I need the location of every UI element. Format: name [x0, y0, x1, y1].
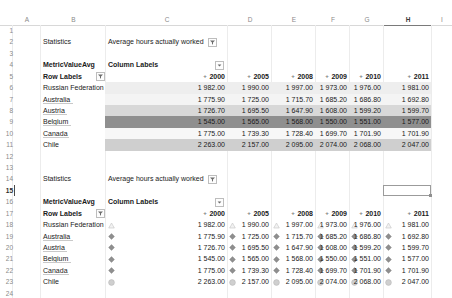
- t1-year-header-2009[interactable]: +2009: [316, 71, 350, 83]
- t2-value-austria-2000[interactable]: 1 726.70: [106, 242, 228, 254]
- t2-value-belgium-2000[interactable]: 1 545.00: [106, 253, 228, 265]
- row-header-12[interactable]: 12: [0, 151, 15, 163]
- t2-year-header-2005[interactable]: +2005: [228, 208, 272, 220]
- t1-row-labels-filter-button[interactable]: [96, 72, 105, 81]
- t1-value-australia-2010[interactable]: 1 686.80: [350, 94, 384, 106]
- t2-value-australia-2008[interactable]: 1 715.70: [272, 231, 316, 243]
- t1-value-austria-2010[interactable]: 1 599.20: [350, 105, 384, 117]
- t1-year-header-2005[interactable]: +2005: [228, 71, 272, 83]
- t2-value-austria-2008[interactable]: 1 647.90: [272, 242, 316, 254]
- t2-value-australia-2009[interactable]: 1 685.20: [316, 231, 350, 243]
- t1-value-chile-2005[interactable]: 2 157.00: [228, 139, 272, 151]
- column-header-h[interactable]: H: [384, 14, 432, 26]
- column-header-f[interactable]: F: [316, 14, 350, 25]
- t1-row-label-chile[interactable]: Chile: [41, 139, 110, 151]
- t2-value-austria-2009[interactable]: 1 608.00: [316, 242, 350, 254]
- t1-value-russian-federation-2010[interactable]: 1 976.00: [350, 82, 384, 94]
- row-header-13[interactable]: 13: [0, 162, 15, 174]
- t2-value-russian-federation-2011[interactable]: 1 981.00: [384, 219, 432, 231]
- t2-column-labels-dropdown[interactable]: [215, 198, 224, 207]
- t1-value-austria-2000[interactable]: 1 726.70: [106, 105, 228, 117]
- row-header-15[interactable]: 15: [0, 185, 15, 197]
- t1-value-belgium-2009[interactable]: 1 550.00: [316, 116, 350, 128]
- row-header-2[interactable]: 2: [0, 36, 15, 48]
- t1-value-belgium-2008[interactable]: 1 568.00: [272, 116, 316, 128]
- t2-row-label-russian-federation[interactable]: Russian Federation: [41, 219, 110, 231]
- t2-value-russian-federation-2000[interactable]: 1 982.00: [106, 219, 228, 231]
- t1-year-header-2011[interactable]: +2011: [384, 71, 432, 83]
- t1-value-canada-2005[interactable]: 1 739.30: [228, 128, 272, 140]
- t2-column-labels[interactable]: Column Labels: [106, 196, 196, 208]
- t1-value-russian-federation-2000[interactable]: 1 982.00: [106, 82, 228, 94]
- row-header-6[interactable]: 6: [0, 82, 15, 94]
- t2-value-chile-2010[interactable]: 2 068.00: [350, 276, 384, 288]
- column-header-row[interactable]: ABCDEFGHI: [0, 14, 452, 26]
- t2-value-canada-2005[interactable]: 1 739.30: [228, 265, 272, 277]
- t1-metric-label[interactable]: MetricValueAvg: [41, 59, 106, 71]
- row-header-19[interactable]: 19: [0, 231, 15, 243]
- expand-icon[interactable]: +: [324, 211, 329, 216]
- expand-icon[interactable]: +: [358, 211, 363, 216]
- t2-value-australia-2005[interactable]: 1 725.00: [228, 231, 272, 243]
- t1-value-canada-2008[interactable]: 1 728.40: [272, 128, 316, 140]
- column-header-e[interactable]: E: [272, 14, 316, 25]
- t1-statistics-label[interactable]: Statistics: [41, 36, 106, 48]
- t2-value-chile-2009[interactable]: 2 074.00: [316, 276, 350, 288]
- t2-year-header-2011[interactable]: +2011: [384, 208, 432, 220]
- row-header-8[interactable]: 8: [0, 105, 15, 117]
- row-header-16[interactable]: 16: [0, 196, 15, 208]
- row-header-17[interactable]: 17: [0, 208, 15, 220]
- row-header-18[interactable]: 18: [0, 219, 15, 231]
- t1-column-labels-dropdown[interactable]: [215, 61, 224, 70]
- t2-value-chile-2000[interactable]: 2 263.00: [106, 276, 228, 288]
- t2-statistics-value[interactable]: Average hours actually worked: [106, 173, 256, 185]
- expand-icon[interactable]: +: [202, 211, 207, 216]
- t1-value-canada-2011[interactable]: 1 701.90: [384, 128, 432, 140]
- t1-value-russian-federation-2008[interactable]: 1 997.00: [272, 82, 316, 94]
- t2-value-australia-2010[interactable]: 1 686.80: [350, 231, 384, 243]
- row-header-20[interactable]: 20: [0, 242, 15, 254]
- spreadsheet-grid[interactable]: ABCDEFGHI1234567891011121314151617181920…: [0, 0, 452, 298]
- row-header-21[interactable]: 21: [0, 253, 15, 265]
- t1-statistics-filter-button[interactable]: [208, 38, 217, 47]
- t1-column-labels[interactable]: Column Labels: [106, 59, 196, 71]
- t2-value-chile-2008[interactable]: 2 095.00: [272, 276, 316, 288]
- expand-icon[interactable]: +: [246, 74, 251, 79]
- t1-value-australia-2011[interactable]: 1 692.80: [384, 94, 432, 106]
- t1-value-belgium-2010[interactable]: 1 551.00: [350, 116, 384, 128]
- t1-value-canada-2000[interactable]: 1 775.00: [106, 128, 228, 140]
- t1-row-label-russian-federation[interactable]: Russian Federation: [41, 82, 110, 94]
- expand-icon[interactable]: +: [407, 211, 412, 216]
- expand-icon[interactable]: +: [290, 211, 295, 216]
- t2-value-belgium-2010[interactable]: 1 551.00: [350, 253, 384, 265]
- t2-value-russian-federation-2008[interactable]: 1 997.00: [272, 219, 316, 231]
- t1-value-chile-2010[interactable]: 2 068.00: [350, 139, 384, 151]
- row-header-3[interactable]: 3: [0, 48, 15, 60]
- t1-value-austria-2008[interactable]: 1 647.90: [272, 105, 316, 117]
- t1-value-australia-2008[interactable]: 1 715.70: [272, 94, 316, 106]
- t2-statistics-filter-button[interactable]: [208, 175, 217, 184]
- t2-year-header-2008[interactable]: +2008: [272, 208, 316, 220]
- t2-value-belgium-2009[interactable]: 1 550.00: [316, 253, 350, 265]
- t1-value-belgium-2000[interactable]: 1 545.00: [106, 116, 228, 128]
- t2-year-header-2000[interactable]: +2000: [106, 208, 228, 220]
- t2-statistics-label[interactable]: Statistics: [41, 173, 106, 185]
- t1-value-chile-2000[interactable]: 2 263.00: [106, 139, 228, 151]
- t2-value-belgium-2005[interactable]: 1 565.00: [228, 253, 272, 265]
- t2-value-austria-2010[interactable]: 1 599.20: [350, 242, 384, 254]
- expand-icon[interactable]: +: [246, 211, 251, 216]
- expand-icon[interactable]: +: [358, 74, 363, 79]
- t1-value-chile-2008[interactable]: 2 095.00: [272, 139, 316, 151]
- t2-year-header-2010[interactable]: +2010: [350, 208, 384, 220]
- t1-value-russian-federation-2005[interactable]: 1 990.00: [228, 82, 272, 94]
- selected-cell-h15[interactable]: [383, 185, 431, 197]
- row-header-10[interactable]: 10: [0, 128, 15, 140]
- t2-value-belgium-2011[interactable]: 1 577.00: [384, 253, 432, 265]
- t1-value-chile-2009[interactable]: 2 074.00: [316, 139, 350, 151]
- t2-value-austria-2005[interactable]: 1 695.50: [228, 242, 272, 254]
- t2-value-russian-federation-2005[interactable]: 1 990.00: [228, 219, 272, 231]
- column-header-a[interactable]: A: [13, 14, 41, 25]
- t1-year-header-2008[interactable]: +2008: [272, 71, 316, 83]
- column-header-d[interactable]: D: [228, 14, 272, 25]
- t1-value-australia-2005[interactable]: 1 725.00: [228, 94, 272, 106]
